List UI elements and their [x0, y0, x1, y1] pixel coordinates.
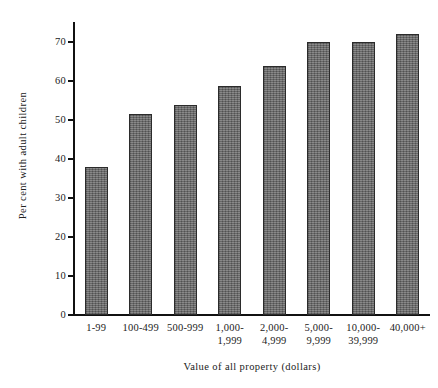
x-axis-category-label: 1-99 [74, 322, 119, 335]
x-axis-category-label-line: 40,000+ [386, 322, 431, 335]
x-axis-category-label-line: 1,000- [208, 322, 253, 335]
x-axis-category-label: 10,000-39,999 [341, 322, 386, 347]
y-axis-tick-label: 70 [22, 37, 66, 47]
plot-area [74, 22, 430, 315]
y-axis-tick-label-text: 0 [26, 310, 66, 320]
bar-chart: 010203040506070 1-99100-499500-9991,000-… [0, 0, 438, 388]
y-axis-tick-label-text: 20 [26, 232, 66, 242]
y-axis-tick-label-text: 40 [26, 154, 66, 164]
x-axis-category-label-line: 39,999 [341, 335, 386, 348]
y-axis-title: Per cent with adult children [17, 71, 28, 241]
bar [85, 167, 108, 315]
bar [307, 42, 330, 315]
bar [396, 34, 419, 315]
x-axis-category-label-line: 5,000- [297, 322, 342, 335]
x-axis-title: Value of all property (dollars) [74, 361, 430, 372]
bar [352, 42, 375, 315]
x-axis-category-label: 1,000-1,999 [208, 322, 253, 347]
y-axis-tick-label: 50 [22, 115, 66, 125]
x-axis-category-label-line: 4,999 [252, 335, 297, 348]
bar [218, 86, 241, 315]
y-axis-tick-label: 20 [22, 232, 66, 242]
x-axis-category-label: 100-499 [119, 322, 164, 335]
x-axis-category-label-line: 1,999 [208, 335, 253, 348]
y-axis-tick-label-text: 10 [26, 271, 66, 281]
x-axis-category-label-line: 10,000- [341, 322, 386, 335]
bar [129, 114, 152, 315]
y-axis-tick-label-text: 50 [26, 115, 66, 125]
bar [263, 66, 286, 315]
x-axis-category-label: 500-999 [163, 322, 208, 335]
y-axis-tick-label: 10 [22, 271, 66, 281]
x-axis-category-label: 5,000-9,999 [297, 322, 342, 347]
x-axis-category-label-line: 9,999 [297, 335, 342, 348]
x-axis-category-label: 40,000+ [386, 322, 431, 335]
y-axis-tick-label: 40 [22, 154, 66, 164]
x-axis-category-label: 2,000-4,999 [252, 322, 297, 347]
y-axis-tick-label: 30 [22, 193, 66, 203]
y-axis-tick-label-text: 70 [26, 37, 66, 47]
x-axis-category-label-line: 1-99 [74, 322, 119, 335]
y-axis-tick-label-text: 60 [26, 76, 66, 86]
bar [174, 105, 197, 315]
y-axis-tick-label-text: 30 [26, 193, 66, 203]
y-axis-tick-label: 0 [22, 310, 66, 320]
y-axis-tick-label: 60 [22, 76, 66, 86]
x-axis-category-label-line: 2,000- [252, 322, 297, 335]
x-axis-category-label-line: 500-999 [163, 322, 208, 335]
x-axis-category-label-line: 100-499 [119, 322, 164, 335]
